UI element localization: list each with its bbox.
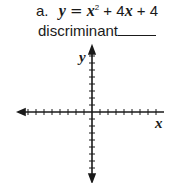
y-axis-up-arrow-icon xyxy=(89,46,95,54)
y-axis-label: y xyxy=(77,49,86,65)
coordinate-grid: y x xyxy=(0,0,175,183)
y-axis-down-arrow-icon xyxy=(89,174,95,182)
x-axis-left-arrow-icon xyxy=(18,109,25,115)
x-axis-label: x xyxy=(154,115,163,131)
